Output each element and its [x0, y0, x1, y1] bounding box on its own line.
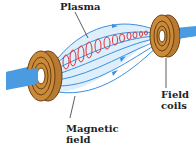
magnetic-field-label-line1: Magnetic	[66, 124, 119, 134]
plasma-leader-line	[75, 12, 88, 38]
field-coils-label-line2: coils	[161, 101, 187, 111]
left-field-coil	[6, 51, 62, 101]
magnetic-field-label-line2: field	[66, 135, 90, 145]
right-field-coil	[150, 15, 196, 57]
magnetic-field-leader-line	[70, 96, 75, 118]
field-coils-label-line1: Field	[161, 90, 189, 100]
plasma-label: Plasma	[60, 2, 101, 12]
